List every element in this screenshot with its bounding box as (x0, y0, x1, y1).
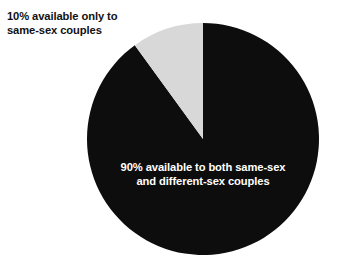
pie-chart-figure: 10% available only to same-sex couples 9… (0, 0, 347, 271)
pie-slices (87, 23, 319, 255)
slice-label-same-sex-only: 10% available only to same-sex couples (7, 10, 207, 37)
pie-slice-both-same-sex-and-different-sex[interactable] (87, 23, 319, 255)
pie-chart-canvas (0, 0, 347, 271)
slice-label-both-same-sex-and-different-sex: 90% available to both same-sex and diffe… (83, 161, 323, 189)
